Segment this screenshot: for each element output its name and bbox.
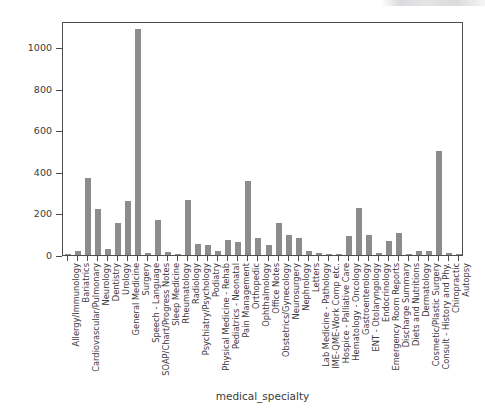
x-axis-tick-label: Psychiatry/Psychology [201,263,211,355]
bars-layer [63,23,462,255]
bar [346,236,352,255]
x-axis-tick-label: Neurosurgery [291,263,301,319]
x-axis-tick [358,256,359,261]
x-axis-tick-label: Allergy/Immunology [71,263,81,346]
bar [135,29,141,255]
x-axis-tick-label: Autopsy [461,263,471,297]
x-axis-tick-label: IME-QME-Work Comp etc. [331,263,341,369]
bar [165,252,171,255]
bar [145,253,151,255]
x-axis-tick [227,256,228,261]
x-axis-tick [157,256,158,261]
bar [356,208,362,255]
x-axis-tick-label: Physical Medicine - Rehab [221,263,231,371]
x-axis-tick-label: Sleep Medicine [171,263,181,326]
x-axis-tick-label: Cosmetic/Plastic Surgery [431,263,441,366]
x-axis-tick-label: Neurology [101,263,111,305]
watermark-artifact [381,0,485,6]
bar [95,209,101,255]
bar [456,254,462,255]
bar [436,151,442,255]
bar [316,253,322,255]
x-axis-tick-label: Rheumatology [181,263,191,323]
x-axis-tick-label: Bariatrics [81,263,91,302]
bar [386,241,392,255]
bar [125,201,131,255]
x-axis-tick-label: Surgery [141,263,151,295]
bar [105,249,111,255]
bar [65,254,71,255]
bar [366,235,372,255]
x-axis-tick [268,256,269,261]
x-axis-tick [328,256,329,261]
bar [426,251,432,255]
x-axis-tick-label: Hematology - Oncology [351,263,361,361]
y-axis-title: count [6,0,20,36]
x-axis-tick-label: SOAP/Chart/Progress Notes [161,263,171,376]
x-axis-tick-label: Urology [121,263,131,295]
x-axis-tick-label: Diets and Nutritions [411,263,421,346]
x-axis-tick-label: Letters [311,263,321,292]
chart-figure: count 02004006008001000 Allergy/Immunolo… [0,0,485,417]
x-axis-tick-label: Cardiovascular/Pulmonary [91,263,101,372]
x-axis-tick-label: Dermatology [421,263,431,317]
y-axis-tick-label: 0 [0,251,52,261]
x-axis-tick-label: Dentistry [111,263,121,301]
y-axis-tick [56,256,62,257]
bar [245,181,251,255]
x-axis-tick [318,256,319,261]
bar [75,251,81,255]
bar [276,223,282,255]
x-axis-tick [418,256,419,261]
y-axis-tick-label: 400 [0,168,52,178]
x-axis-tick [167,256,168,261]
x-axis-tick [117,256,118,261]
x-axis-tick [207,256,208,261]
x-axis-tick [97,256,98,261]
bar [376,253,382,255]
bar [336,254,342,255]
bar [446,253,452,255]
x-axis-tick-label: ENT - Otolaryngology [371,263,381,352]
x-axis-tick [187,256,188,261]
x-axis-tick [237,256,238,261]
x-axis-tick [298,256,299,261]
x-axis-tick [378,256,379,261]
x-axis-tick [398,256,399,261]
bar [286,235,292,255]
bar [205,245,211,255]
bar [266,245,272,255]
bar [406,254,412,255]
x-axis-tick [278,256,279,261]
x-axis-tick [137,256,138,261]
x-axis-tick [147,256,148,261]
y-axis-title-wrapper: count [6,0,20,36]
bar [185,200,191,255]
plot-area [62,22,463,256]
x-axis-tick-label: Speech - Language [151,263,161,343]
bar [85,178,91,255]
bar [155,220,161,255]
x-axis-tick-label: Lab Medicine - Pathology [321,263,331,367]
x-axis-tick-label: Orthopedic [251,263,261,309]
x-axis-tick [197,256,198,261]
x-axis-tick [247,256,248,261]
bar [225,240,231,255]
bar [326,254,332,255]
bar [296,238,302,255]
x-axis-tick-label: General Medicine [131,263,141,335]
x-axis-tick [448,256,449,261]
x-axis-tick [348,256,349,261]
x-axis-tick-label: Emergency Room Reports [391,263,401,371]
y-axis-tick-label: 600 [0,126,52,136]
x-axis-tick [458,256,459,261]
x-axis-tick-label: Podiatry [211,263,221,297]
x-axis-tick [257,256,258,261]
x-axis-tick [107,256,108,261]
x-axis-tick [408,256,409,261]
x-axis-tick [288,256,289,261]
x-axis-tick-label: Chiropractic [451,263,461,313]
x-axis-title: medical_specialty [62,390,463,402]
x-axis-tick-label: Ophthalmology [261,263,271,327]
y-axis-tick-label: 800 [0,85,52,95]
